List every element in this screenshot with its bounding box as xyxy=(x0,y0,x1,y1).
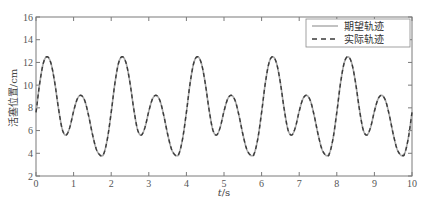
x-tick-label: 10 xyxy=(407,178,417,189)
x-tick-label: 4 xyxy=(184,178,189,189)
x-tick-label: 8 xyxy=(334,178,339,189)
y-tick-label: 2 xyxy=(28,171,33,182)
x-tick-label: 9 xyxy=(372,178,377,189)
y-tick-label: 4 xyxy=(28,148,33,159)
x-tick-label: 2 xyxy=(109,178,114,189)
y-tick-label: 16 xyxy=(23,12,33,23)
x-tick-label: 7 xyxy=(297,178,302,189)
y-tick-label: 8 xyxy=(28,102,33,113)
y-tick-label: 6 xyxy=(28,125,33,136)
y-tick-label: 12 xyxy=(23,57,33,68)
x-axis-label: t/s xyxy=(218,187,231,198)
y-tick-label: 14 xyxy=(23,34,33,45)
y-axis-label: 活塞位置/cm xyxy=(7,68,19,127)
legend: 期望轨迹 实际轨迹 xyxy=(306,19,410,47)
legend-label-actual: 实际轨迹 xyxy=(344,33,384,45)
x-tick-label: 0 xyxy=(34,178,39,189)
y-tick-label: 10 xyxy=(23,80,33,91)
x-tick-label: 1 xyxy=(71,178,76,189)
trajectory-chart: 246810121416 012345678910 活塞位置/cm t/s 期望… xyxy=(0,0,426,210)
x-axis-label-unit: /s xyxy=(222,187,231,198)
x-tick-label: 6 xyxy=(259,178,264,189)
legend-label-desired: 期望轨迹 xyxy=(344,20,384,32)
x-tick-label: 3 xyxy=(146,178,151,189)
